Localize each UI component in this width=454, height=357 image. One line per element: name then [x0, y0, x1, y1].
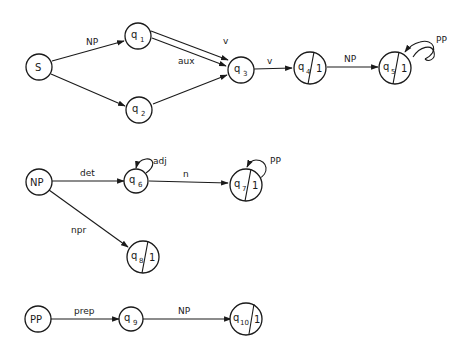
svg-text:8: 8	[139, 257, 143, 265]
svg-text:q: q	[233, 312, 239, 323]
edge-q6-q7	[149, 181, 228, 183]
svg-text:3: 3	[243, 70, 247, 78]
svg-text:q: q	[234, 63, 240, 74]
svg-text:1: 1	[254, 314, 260, 325]
loop-q5	[413, 47, 434, 60]
edge-label-pp-q9: prep	[74, 306, 95, 316]
svg-text:q: q	[234, 178, 240, 189]
edge-np-q8	[49, 190, 128, 247]
edge-label-np-q8: npr	[71, 225, 86, 235]
edge-s-q2	[51, 74, 125, 106]
svg-text:q: q	[129, 174, 135, 185]
edge-label-q6-q7: n	[183, 169, 189, 179]
node-q8-final: q 8 1	[127, 241, 159, 273]
edge-q3-q4	[254, 68, 292, 69]
edge-label-np-q6: det	[80, 168, 95, 178]
svg-text:q: q	[383, 61, 389, 72]
edge-label-q1-q4: v	[223, 36, 229, 46]
node-np: NP	[26, 169, 52, 195]
node-q10-final: q 10 1	[230, 303, 262, 335]
svg-text:2: 2	[141, 110, 145, 118]
node-s: S	[26, 54, 52, 80]
svg-text:4: 4	[306, 68, 311, 76]
edge-label-q3-q4: v	[267, 56, 273, 66]
node-q2: q 2	[126, 97, 152, 123]
svg-text:PP: PP	[30, 314, 42, 325]
svg-text:1: 1	[401, 63, 407, 74]
svg-text:7: 7	[242, 185, 246, 193]
svg-text:1: 1	[252, 180, 258, 191]
node-q3: q 3	[228, 57, 254, 83]
svg-text:S: S	[35, 62, 41, 73]
node-q6: q 6	[124, 169, 148, 193]
node-q1: q 1	[125, 23, 151, 49]
svg-text:q: q	[124, 312, 130, 323]
edge-label-s-q1: NP	[86, 37, 99, 47]
loop-label-q6: adj	[153, 156, 167, 166]
svg-text:5: 5	[391, 68, 395, 76]
svg-text:1: 1	[149, 252, 155, 263]
svg-text:q: q	[131, 250, 137, 261]
network-np: det adj n PP npr NP q 6 q 7 1 q	[26, 156, 281, 273]
node-q5-final: q 5 1	[379, 52, 411, 84]
network-pp: prep NP PP q 9 q 10 1	[25, 303, 262, 335]
edge-q2-q3	[153, 75, 227, 104]
edge-label-q9-q10: NP	[178, 306, 191, 316]
svg-text:1: 1	[316, 63, 322, 74]
svg-text:1: 1	[140, 36, 144, 44]
node-pp: PP	[25, 306, 51, 332]
svg-text:6: 6	[138, 181, 143, 189]
svg-text:NP: NP	[30, 177, 44, 188]
svg-text:q: q	[132, 103, 138, 114]
svg-text:10: 10	[240, 319, 249, 327]
svg-text:9: 9	[133, 319, 137, 327]
svg-text:q: q	[131, 29, 137, 40]
loop-label-q5: PP	[436, 35, 447, 45]
network-s: NP v aux v NP PP S q 1 q 2	[26, 23, 447, 123]
loop-label-q7: PP	[270, 156, 281, 166]
node-q4-final: q 4 1	[294, 52, 326, 84]
edge-label-q1-q3: aux	[178, 56, 195, 66]
node-q9: q 9	[119, 307, 143, 331]
edge-label-q4-q5: NP	[344, 54, 357, 64]
node-q7-final: q 7 1	[230, 169, 262, 201]
svg-text:q: q	[298, 61, 304, 72]
atn-diagram: NP v aux v NP PP S q 1 q 2	[0, 0, 454, 357]
